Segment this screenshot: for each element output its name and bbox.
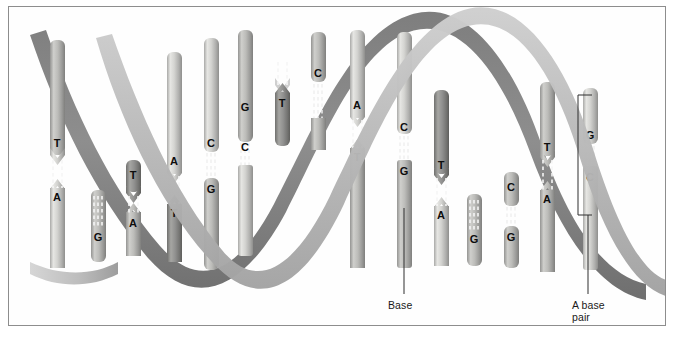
nucleotide-label: C [400, 121, 408, 133]
nucleotide-label: G [400, 165, 409, 177]
annotation-label-base-pair-line1: A base [572, 299, 605, 311]
nucleotide-label: A [170, 155, 178, 167]
backbone-tail-left [30, 262, 118, 285]
nucleotide-label: A [129, 217, 137, 229]
nucleotide-label: T [54, 137, 61, 149]
base-pair: G C [238, 30, 253, 256]
nucleotide-label: G [207, 183, 216, 195]
base-pair: T A [434, 90, 449, 266]
nucleotide-label: G [470, 233, 479, 245]
dna-double-helix-figure: T A G [0, 0, 676, 338]
annotation-layer [404, 95, 592, 294]
base-pair: T A [50, 40, 65, 268]
nucleotide-label: C [507, 181, 515, 193]
nucleotide-label: T [438, 159, 445, 171]
nucleotide-label: T [279, 97, 286, 109]
base-pair: G [91, 190, 106, 262]
annotation-label-base: Base [388, 299, 412, 311]
nucleotide-label: A [543, 193, 551, 205]
nucleotide-label: T [130, 169, 137, 181]
nucleotide-label: C [207, 137, 215, 149]
base-pair: T [275, 62, 290, 146]
nucleotide-label: A [353, 99, 361, 111]
nucleotide-label: A [437, 209, 445, 221]
helix-canvas: T A G [0, 0, 676, 338]
nucleotide-label: G [241, 101, 250, 113]
nucleotide-label: G [94, 231, 103, 243]
base-pair: A T [167, 52, 182, 262]
annotation-label-base-pair-line2: pair [572, 311, 605, 323]
base-pair: C G [504, 172, 519, 268]
base-pair: G [467, 194, 482, 266]
nucleotide-label: C [241, 141, 249, 153]
nucleotide-label: T [544, 141, 551, 153]
nucleotide-label: G [507, 231, 516, 243]
base-pair: C [311, 32, 326, 150]
annotation-label-base-pair: A base pair [572, 299, 605, 323]
nucleotide-label: C [314, 67, 322, 79]
nucleotide-label: A [53, 191, 61, 203]
